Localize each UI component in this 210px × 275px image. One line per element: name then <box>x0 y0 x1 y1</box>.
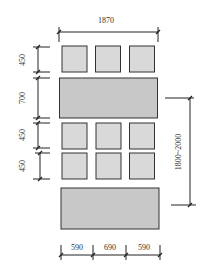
bottom-dim-label-1: 590 <box>71 243 83 252</box>
left-dim-label-4: 450 <box>18 160 27 172</box>
top-width-label: 1870 <box>98 16 114 25</box>
small-box <box>62 123 87 149</box>
bottom-dim-label-3: 590 <box>138 243 150 252</box>
large-panel-top <box>60 78 158 118</box>
row-2-small-boxes <box>62 123 155 149</box>
small-box <box>96 123 121 149</box>
small-box <box>62 46 87 72</box>
row-1-small-boxes <box>62 46 155 72</box>
small-box <box>130 123 155 149</box>
bottom-dimensions: 590 690 590 <box>59 243 162 260</box>
left-dim-label-3: 450 <box>18 129 27 141</box>
small-box <box>130 153 155 179</box>
right-height-label: 1800~2000 <box>174 134 183 170</box>
bottom-dim-label-2: 690 <box>104 243 116 252</box>
right-dimension: 1800~2000 <box>165 96 196 207</box>
top-dimension: 1870 <box>57 16 160 42</box>
left-dimensions: 450 700 450 450 <box>18 45 50 181</box>
left-dim-label-1: 450 <box>18 54 27 66</box>
small-box <box>96 46 121 72</box>
small-box <box>130 46 155 72</box>
cabinet-layout-diagram: 1870 450 700 <box>0 0 210 275</box>
left-dim-label-2: 700 <box>18 92 27 104</box>
large-panel-bottom <box>61 188 159 229</box>
row-3-small-boxes <box>62 153 155 179</box>
small-box <box>96 153 121 179</box>
small-box <box>62 153 87 179</box>
